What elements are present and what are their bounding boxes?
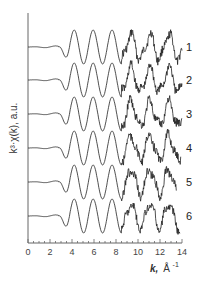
- x-tick-label: 12: [155, 247, 165, 257]
- spectrum-curve-6: [28, 199, 180, 234]
- spectrum-curve-2: [28, 61, 182, 97]
- spectrum-curve-3: [28, 96, 182, 132]
- curve-label-5: 5: [186, 176, 192, 188]
- x-tick-label: 4: [69, 247, 74, 257]
- spectrum-curve-1: [28, 30, 182, 66]
- x-tick-label: 10: [133, 247, 143, 257]
- curve-labels: 123456: [186, 41, 192, 222]
- curve-label-4: 4: [186, 142, 192, 154]
- spectrum-curve-5: [28, 165, 176, 201]
- x-tick-label: 0: [25, 247, 30, 257]
- x-tick-label: 8: [113, 247, 118, 257]
- x-axis-ticks: [28, 239, 182, 243]
- spectra-curves: [28, 30, 182, 235]
- x-axis-title: k, Å -1: [150, 261, 179, 274]
- x-tick-label: 14: [177, 247, 187, 257]
- x-axis-title-unit: Å: [163, 262, 170, 274]
- exafs-chart: 02468101214 123456 k³·χ(k), a.u. k, Å -1: [0, 0, 202, 281]
- spectrum-curve-4: [28, 129, 181, 165]
- curve-label-3: 3: [186, 108, 192, 120]
- x-tick-label: 2: [47, 247, 52, 257]
- y-axis-title: k³·χ(k), a.u.: [8, 103, 19, 154]
- x-axis-tick-labels: 02468101214: [25, 247, 187, 257]
- curve-label-1: 1: [186, 41, 192, 53]
- x-tick-label: 6: [91, 247, 96, 257]
- x-axis-title-k: k,: [150, 263, 158, 274]
- curve-label-2: 2: [186, 74, 192, 86]
- curve-label-6: 6: [186, 210, 192, 222]
- x-axis-title-exp: -1: [173, 261, 179, 268]
